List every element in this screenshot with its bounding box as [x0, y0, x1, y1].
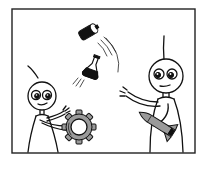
- gear-icon: [62, 110, 96, 144]
- comic-panel: [0, 0, 210, 171]
